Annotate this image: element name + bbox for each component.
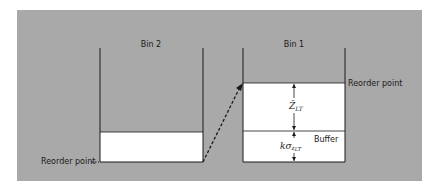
buffer-label: Buffer	[314, 135, 339, 144]
bin-1-label: Bin 1	[284, 40, 304, 49]
bin-1-reorder-label: Reorder point	[348, 79, 402, 88]
bin-2-reorder-label: Reorder point	[41, 157, 95, 166]
bin-2-label: Bin 2	[141, 40, 161, 49]
bin-2: Bin 2 Reorder point	[41, 40, 203, 166]
transfer-arrow	[203, 83, 243, 162]
bin-2-stock	[100, 132, 203, 162]
two-bin-diagram: Bin 2 Reorder point Bin 1 Reorder point …	[0, 0, 436, 192]
arrowhead-icon	[236, 83, 243, 91]
bin-1: Bin 1 Reorder point Buffer Z̄LT kσzLT	[243, 40, 402, 162]
